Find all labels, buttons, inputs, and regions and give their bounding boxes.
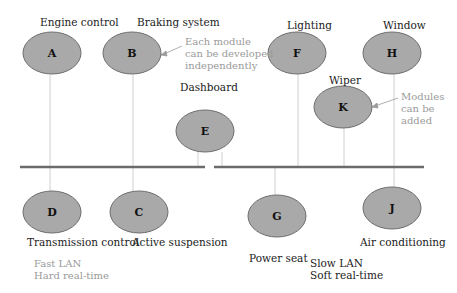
svg-text:E: E: [201, 125, 209, 138]
svg-text:H: H: [387, 47, 397, 60]
node-g[interactable]: G: [248, 195, 306, 237]
svg-text:B: B: [127, 47, 136, 60]
svg-text:K: K: [338, 101, 348, 114]
fast-lan-line2: Hard real-time: [34, 270, 109, 282]
node-a[interactable]: A: [23, 32, 81, 74]
node-d[interactable]: D: [23, 191, 81, 233]
annotation-independent: Each module can be developed independent…: [185, 36, 274, 72]
node-e[interactable]: E: [176, 110, 234, 152]
annotation-added: Modules can be added: [401, 91, 444, 127]
node-b[interactable]: B: [103, 32, 161, 74]
annotation-independent-line1: Each module: [185, 36, 274, 48]
annotation-added-line2: can be: [401, 103, 444, 115]
label-active-suspension: Active suspension: [132, 236, 228, 248]
label-wiper: Wiper: [329, 74, 361, 86]
annotation-added-line1: Modules: [401, 91, 444, 103]
fast-lan-line1: Fast LAN: [34, 258, 109, 270]
label-air-conditioning: Air conditioning: [360, 236, 446, 248]
annotation-added-line3: added: [401, 115, 444, 127]
label-power-seat: Power seat: [249, 252, 308, 264]
label-lighting: Lighting: [287, 19, 332, 31]
label-dashboard: Dashboard: [180, 81, 238, 93]
node-k[interactable]: K: [314, 86, 372, 128]
svg-text:C: C: [135, 206, 144, 219]
node-h[interactable]: H: [363, 32, 421, 74]
label-window: Window: [383, 19, 426, 31]
label-braking-system: Braking system: [137, 16, 220, 28]
arrow-to-k: [375, 98, 398, 106]
arrow-head-b: [161, 51, 167, 56]
slow-lan-label: Slow LAN Soft real-time: [310, 257, 383, 281]
vehicle-network-diagram: A B E F H K D C G J Engine control Braki…: [0, 0, 457, 293]
svg-text:D: D: [47, 206, 57, 219]
svg-text:G: G: [272, 210, 281, 223]
slow-lan-line1: Slow LAN: [310, 257, 383, 269]
fast-lan-label: Fast LAN Hard real-time: [34, 258, 109, 282]
label-engine-control: Engine control: [40, 16, 119, 28]
node-f[interactable]: F: [268, 32, 326, 74]
svg-text:J: J: [388, 202, 394, 215]
label-transmission-control: Transmission control: [27, 236, 139, 248]
svg-text:A: A: [47, 47, 57, 60]
node-j[interactable]: J: [363, 187, 421, 229]
arrow-head-k: [372, 103, 378, 108]
annotation-independent-line3: independently: [185, 60, 274, 72]
svg-text:F: F: [293, 47, 301, 60]
node-c[interactable]: C: [110, 191, 168, 233]
annotation-independent-line2: can be developed: [185, 48, 274, 60]
slow-lan-line2: Soft real-time: [310, 269, 383, 281]
